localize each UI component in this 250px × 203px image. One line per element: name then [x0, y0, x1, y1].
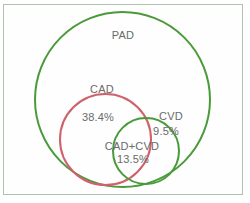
pad-label: PAD — [112, 30, 134, 41]
cad-cvd-label: CAD+CVD — [105, 141, 159, 152]
cad-cvd-value: 13.5% — [117, 154, 149, 165]
cad-value: 38.4% — [82, 112, 114, 123]
cvd-value: 9.5% — [153, 126, 179, 137]
cad-label: CAD — [90, 84, 114, 95]
cvd-label: CVD — [159, 111, 183, 122]
